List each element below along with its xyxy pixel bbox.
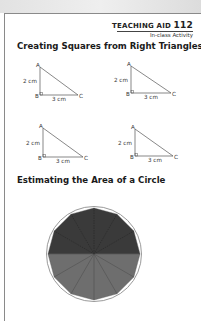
svg-text:C: C [174, 154, 178, 160]
svg-text:B: B [126, 91, 130, 97]
svg-text:3 cm: 3 cm [144, 94, 158, 100]
svg-text:B: B [130, 154, 134, 160]
circle-area-figure [47, 207, 142, 302]
svg-text:2 cm: 2 cm [26, 140, 40, 146]
svg-text:A: A [131, 124, 135, 130]
svg-text:B: B [38, 155, 42, 161]
svg-text:3 cm: 3 cm [148, 157, 162, 163]
figures-layer: A B C 2 cm 3 cm A B C 2 cm 3 cm A B C 2 … [0, 0, 201, 321]
svg-text:3 cm: 3 cm [52, 96, 66, 102]
svg-text:C: C [79, 93, 83, 99]
svg-text:2 cm: 2 cm [118, 140, 132, 146]
right-triangle-2: A B C 2 cm 3 cm [114, 61, 176, 100]
svg-text:A: A [39, 123, 43, 129]
svg-text:C: C [84, 155, 88, 161]
right-triangle-4: A B C 2 cm 3 cm [118, 124, 178, 163]
right-triangle-3: A B C 2 cm 3 cm [26, 123, 88, 164]
svg-text:C: C [172, 91, 176, 97]
svg-text:A: A [36, 62, 40, 68]
right-triangle-1: A B C 2 cm 3 cm [23, 62, 83, 102]
svg-text:A: A [127, 61, 131, 67]
svg-text:2 cm: 2 cm [23, 78, 37, 84]
svg-text:2 cm: 2 cm [114, 77, 128, 83]
svg-text:3 cm: 3 cm [56, 158, 70, 164]
svg-text:B: B [35, 93, 39, 99]
